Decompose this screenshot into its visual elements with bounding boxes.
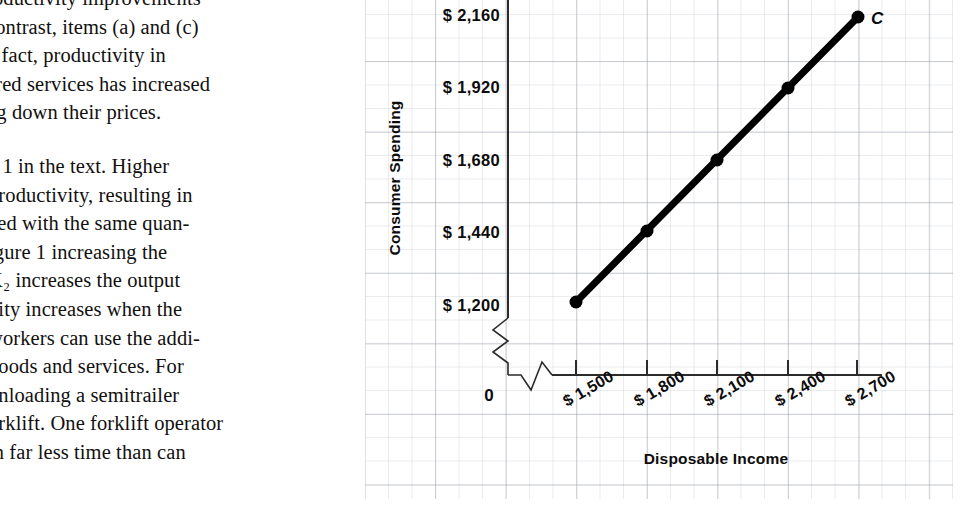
y-tick-label: $ 1,680 bbox=[443, 151, 500, 170]
text-line: n fact, productivity in bbox=[0, 41, 210, 70]
text-line: e 1 in the text. Higher bbox=[0, 152, 223, 181]
y-tick-label: $ 1,200 bbox=[443, 296, 500, 315]
series-label-c: C bbox=[871, 9, 883, 29]
paragraph-1: roductivity improvements contrast, items… bbox=[0, 0, 210, 127]
text-line: contrast, items (a) and (c) bbox=[0, 13, 210, 42]
origin-label: 0 bbox=[484, 386, 493, 406]
text-line: vity increases when the bbox=[0, 295, 223, 324]
text-column: roductivity improvements contrast, items… bbox=[0, 0, 332, 527]
text-line: ng down their prices. bbox=[0, 98, 210, 127]
text-line: unloading a semitrailer bbox=[0, 381, 223, 410]
text-line: ered services has increased bbox=[0, 70, 210, 99]
page-root: roductivity improvements contrast, items… bbox=[0, 0, 965, 527]
text-line: orklift. One forklift operator bbox=[0, 409, 223, 438]
y-tick-label: $ 1,920 bbox=[443, 78, 500, 97]
graph-paper-background bbox=[365, 0, 953, 499]
y-tick-label: $ 2,160 bbox=[443, 6, 500, 25]
y-axis-title: Consumer Spending bbox=[386, 101, 404, 256]
text-line: igure 1 increasing the bbox=[0, 238, 223, 267]
paragraph-2: e 1 in the text. Higher productivity, re… bbox=[0, 152, 223, 467]
x-axis-title: Disposable Income bbox=[644, 450, 789, 468]
text-line: roductivity improvements bbox=[0, 0, 210, 13]
text-line: workers can use the addi- bbox=[0, 324, 223, 353]
text-line: K₂ increases the output bbox=[0, 266, 223, 295]
y-tick-label: $ 1,440 bbox=[443, 223, 500, 242]
text-line: ced with the same quan- bbox=[0, 209, 223, 238]
text-line: in far less time than can bbox=[0, 438, 223, 467]
text-line: goods and services. For bbox=[0, 352, 223, 381]
text-line: productivity, resulting in bbox=[0, 181, 223, 210]
